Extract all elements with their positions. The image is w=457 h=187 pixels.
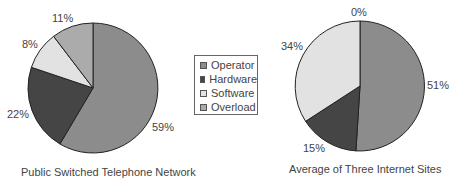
slice-operator <box>356 21 425 151</box>
legend-label: Hardware <box>209 73 257 85</box>
swatch-operator <box>200 62 207 69</box>
legend-label: Overload <box>211 101 256 113</box>
swatch-hardware <box>200 76 205 83</box>
label-software-2: 34% <box>281 40 303 52</box>
swatch-software <box>200 90 207 97</box>
label-overload-1: 11% <box>52 12 73 24</box>
label-software-1: 8% <box>22 38 38 50</box>
legend-item-operator: Operator <box>200 58 257 72</box>
caption-pstn: Public Switched Telephone Network <box>21 166 196 178</box>
swatch-overload <box>200 104 207 111</box>
legend-item-software: Software <box>200 86 257 100</box>
label-operator-2: 51% <box>427 79 449 91</box>
legend-label: Operator <box>211 59 254 71</box>
legend-item-overload: Overload <box>200 100 257 114</box>
legend-item-hardware: Hardware <box>200 72 257 86</box>
caption-internet: Average of Three Internet Sites <box>289 163 442 175</box>
label-hardware-2: 15% <box>303 142 325 154</box>
label-overload-2: 0% <box>351 6 367 18</box>
label-hardware-1: 22% <box>7 108 29 120</box>
label-operator-1: 59% <box>152 121 174 133</box>
pie-pstn <box>28 23 158 153</box>
pie-internet <box>295 21 424 151</box>
legend-label: Software <box>211 87 254 99</box>
legend: Operator Hardware Software Overload <box>194 55 258 115</box>
